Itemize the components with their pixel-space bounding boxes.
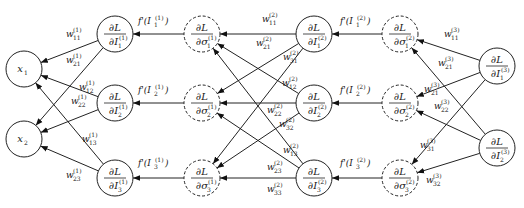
weight-label-layer3: w(3)11 [444, 26, 460, 41]
weight-superscript: (1) [86, 79, 95, 86]
weight-superscript: (1) [73, 167, 82, 174]
node-subscript: 3 [405, 186, 409, 193]
activation-superscript: (1) [155, 83, 164, 90]
weight-superscript: (3) [427, 137, 436, 144]
node-dL_dI1_1: ∂L∂I(1)1 [97, 16, 133, 52]
weight-superscript: (3) [433, 172, 442, 179]
node-x2: x2 [6, 121, 42, 157]
weight-superscript: (2) [286, 116, 295, 123]
weight-subscript: 11 [73, 34, 81, 41]
activation-derivative-label: f'(I(2)3) [339, 156, 371, 170]
node-superscript: (2) [318, 103, 327, 110]
node-superscript: (1) [119, 103, 128, 110]
weight-label-layer2: w(2)13 [283, 142, 299, 157]
input-subscript: 2 [24, 139, 28, 146]
weight-superscript: (2) [274, 159, 283, 166]
node-numerator: ∂L [196, 91, 208, 102]
activation-subscript: 2 [356, 90, 360, 97]
input-subscript: 1 [24, 69, 28, 76]
activation-superscript: (2) [357, 14, 366, 21]
weight-subscript: 32 [433, 180, 441, 187]
node-superscript: (2) [406, 178, 415, 185]
weight-subscript: 12 [86, 87, 94, 94]
weight-label-layer1: w(1)21 [66, 52, 82, 67]
weight-superscript: (1) [89, 131, 98, 138]
weight-subscript: 13 [89, 139, 97, 146]
node-numerator: ∂L [491, 136, 503, 147]
activation-derivative-label: f'(I(1)3) [137, 156, 169, 170]
node-subscript: 3 [317, 186, 321, 193]
activation-text: f'(I [339, 16, 353, 26]
weight-subscript: 11 [269, 19, 277, 26]
node-dL_dsig3_2: ∂L∂σ(2)3 [382, 160, 418, 196]
weight-label-layer3: w(3)21 [438, 55, 454, 70]
weight-label-layer2: w(2)12 [282, 75, 298, 90]
node-superscript: (3) [501, 66, 510, 73]
weight-superscript: (3) [451, 26, 460, 33]
activation-derivative-label: f'(I(2)2) [339, 83, 371, 97]
activation-text: f'(I [339, 85, 353, 95]
node-numerator: ∂L [308, 22, 320, 33]
node-numerator: ∂L [394, 91, 406, 102]
node-dL_dI2_3: ∂L∂I(3)2 [479, 130, 515, 166]
activation-superscript: (1) [155, 156, 164, 163]
weight-subscript: 23 [274, 167, 282, 174]
weight-subscript: 22 [274, 110, 282, 117]
node-dL_dsig1_1: ∂L∂σ(1)1 [184, 16, 220, 52]
node-superscript: (2) [406, 34, 415, 41]
weight-superscript: (2) [290, 142, 299, 149]
weight-label-layer3: w(3)21 [424, 81, 440, 96]
weight-edge-l1-22 [41, 110, 99, 133]
activation-close-paren: ) [366, 158, 371, 168]
input-label: x [17, 63, 23, 74]
weight-subscript: 21 [73, 60, 81, 67]
activation-subscript: 3 [356, 163, 360, 170]
weight-subscript: 12 [289, 83, 297, 90]
weight-subscript: 21 [431, 89, 439, 96]
node-superscript: (1) [119, 178, 128, 185]
node-dL_dsig1_2: ∂L∂σ(2)1 [382, 16, 418, 52]
weight-subscript: 31 [427, 145, 435, 152]
activation-subscript: 3 [154, 163, 158, 170]
activation-superscript: (2) [357, 156, 366, 163]
weight-subscript: 31 [290, 57, 298, 64]
weight-edge-l1-23 [41, 146, 99, 171]
node-numerator: ∂L [109, 91, 121, 102]
weight-superscript: (2) [274, 102, 283, 109]
weight-label-layer3: w(3)22 [434, 98, 450, 113]
backprop-diagram: x1x2∂L∂I(1)1∂L∂I(1)2∂L∂I(1)3∂L∂σ(1)1∂L∂σ… [0, 0, 524, 208]
node-numerator: ∂L [394, 22, 406, 33]
node-subscript: 1 [317, 42, 321, 49]
activation-close-paren: ) [164, 16, 169, 26]
weight-superscript: (2) [290, 49, 299, 56]
weight-superscript: (3) [445, 55, 454, 62]
weight-label-layer2: w(2)23 [267, 159, 283, 174]
node-numerator: ∂L [308, 166, 320, 177]
weight-label-layer1: w(1)23 [66, 167, 82, 182]
weight-subscript: 21 [263, 43, 271, 50]
node-subscript: 1 [500, 74, 504, 81]
weight-superscript: (2) [274, 181, 283, 188]
weight-superscript: (2) [263, 35, 272, 42]
weight-superscript: (1) [73, 26, 82, 33]
weight-superscript: (3) [441, 98, 450, 105]
weight-subscript: 23 [73, 175, 81, 182]
input-label: x [17, 133, 23, 144]
node-superscript: (1) [208, 103, 217, 110]
node-numerator: ∂L [109, 166, 121, 177]
node-numerator: ∂L [491, 54, 503, 65]
weight-superscript: (2) [289, 75, 298, 82]
weight-subscript: 22 [78, 101, 86, 108]
activation-text: f'(I [137, 85, 151, 95]
node-subscript: 3 [207, 186, 211, 193]
weight-label-layer1: w(1)11 [66, 26, 82, 41]
node-dL_dI3_1: ∂L∂I(1)3 [97, 160, 133, 196]
weight-subscript: 13 [290, 150, 298, 157]
activation-close-paren: ) [366, 85, 371, 95]
node-subscript: 3 [118, 186, 122, 193]
node-dL_dsig3_1: ∂L∂σ(1)3 [184, 160, 220, 196]
node-dL_dI1_2: ∂L∂I(2)1 [296, 16, 332, 52]
activation-text: f'(I [137, 16, 151, 26]
weight-label-layer2: w(2)33 [267, 181, 283, 196]
node-subscript: 1 [118, 42, 122, 49]
